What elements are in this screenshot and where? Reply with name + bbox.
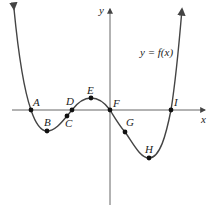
point-label-h: H [144, 143, 154, 155]
point-a [29, 108, 34, 113]
point-b [45, 129, 50, 134]
point-label-a: A [32, 96, 40, 108]
point-label-f: F [112, 97, 120, 109]
x-axis-label: x [200, 113, 206, 125]
point-e [89, 96, 94, 101]
point-label-c: C [65, 117, 73, 129]
point-label-e: E [86, 84, 94, 96]
point-label-i: I [173, 96, 179, 108]
function-graph: x y y = f(x) ABCDEFGHI [0, 0, 214, 217]
point-label-g: G [126, 116, 134, 128]
y-axis-label: y [98, 4, 104, 16]
function-curve [14, 9, 182, 158]
point-d [70, 108, 75, 113]
function-label: y = f(x) [139, 46, 173, 59]
point-label-d: D [65, 95, 74, 107]
point-f [108, 108, 113, 113]
critical-points: ABCDEFGHI [29, 84, 179, 160]
point-g [123, 130, 128, 135]
point-label-b: B [44, 116, 51, 128]
point-i [169, 108, 174, 113]
point-h [147, 156, 152, 161]
